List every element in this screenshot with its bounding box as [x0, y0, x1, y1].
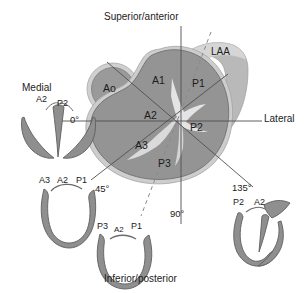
valve-view-135deg-illustration: [234, 201, 290, 267]
orientation-label-medial: Medial: [22, 83, 51, 93]
orientation-label-inferior-posterior: Inferior/posterior: [104, 274, 177, 284]
annulus-segment-label-a3: A3: [135, 140, 148, 151]
valve-view-45deg-label-p1: P1: [76, 176, 87, 185]
valve-view-135deg-label-a2: A2: [254, 198, 265, 207]
imaging-plane-angle-135: 135°: [232, 183, 252, 193]
valve-view-45deg-label-a3: A3: [39, 176, 50, 185]
imaging-plane-angle-45: 45°: [95, 184, 109, 194]
aorta-label: Ao: [103, 83, 116, 94]
valve-view-45deg-label-a2: A2: [57, 176, 68, 185]
orientation-label-superior-anterior: Superior/anterior: [104, 12, 178, 22]
annulus-segment-label-a2: A2: [144, 110, 157, 121]
mitral-valve-diagram: Superior/anterior Inferior/posterior Med…: [0, 0, 306, 293]
annulus-segment-label-a1: A1: [152, 75, 165, 86]
valve-view-0deg-label-p2: P2: [57, 99, 68, 108]
imaging-plane-angle-90: 90°: [170, 209, 184, 219]
laa-label: LAA: [211, 47, 230, 57]
valve-view-45deg-illustration: [41, 184, 95, 248]
valve-view-135deg-label-p2: P2: [233, 198, 244, 207]
annulus-segment-label-p3: P3: [158, 158, 171, 169]
valve-view-0deg-illustration: [21, 103, 95, 158]
imaging-plane-angle-0: 0°: [70, 115, 79, 125]
valve-view-90deg-label-p1: P1: [131, 222, 142, 231]
valve-view-90deg-label-a2: A2: [114, 226, 124, 234]
annulus-segment-label-p2: P2: [190, 122, 203, 133]
annulus-segment-label-p1: P1: [192, 78, 205, 89]
valve-view-90deg-label-p3: P3: [97, 222, 108, 231]
orientation-label-lateral: Lateral: [264, 114, 295, 124]
valve-view-0deg-label-a2: A2: [36, 95, 47, 104]
diagram-canvas: [0, 0, 306, 293]
